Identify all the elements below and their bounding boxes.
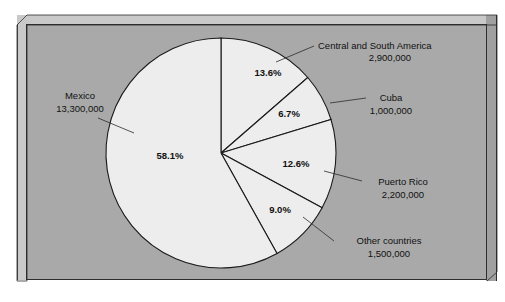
callout-label-other-countries-value: 1,500,000 [368,248,410,259]
percent-label-other-countries: 9.0% [269,204,291,215]
callout-puerto-rico: Puerto Rico 2,200,000 [378,176,428,200]
percent-label-cuba: 6.7% [278,108,300,119]
callout-cuba: Cuba 1,000,000 [370,92,412,116]
pie-slice-group [106,38,336,268]
callout-label-other-countries-name: Other countries [357,235,422,246]
percent-label-mexico: 58.1% [157,150,184,161]
callout-label-cuba-value: 1,000,000 [370,105,412,116]
callout-label-puerto-rico-name: Puerto Rico [378,176,428,187]
percent-label-puerto-rico: 12.6% [283,158,310,169]
callout-central-and-south-america: Central and South America 2,900,000 [318,40,432,63]
figure-container: 13.6% 6.7% 12.6% 9.0% 58.1% Central and … [0,0,505,302]
callout-label-central-and-south-america-name: Central and South America [318,40,432,51]
callout-other-countries: Other countries 1,500,000 [357,235,422,259]
percent-label-central-and-south-america: 13.6% [255,67,282,78]
callout-label-cuba-name: Cuba [380,92,403,103]
leader-line-central-and-south-america [276,46,314,62]
leader-line-cuba [330,98,366,103]
callout-label-central-and-south-america-value: 2,900,000 [369,52,411,63]
callout-label-puerto-rico-value: 2,200,000 [382,189,424,200]
callout-mexico: Mexico 13,300,000 [56,90,104,114]
pie-chart: 13.6% 6.7% 12.6% 9.0% 58.1% Central and … [0,0,505,302]
callout-label-mexico-name: Mexico [65,90,95,101]
callout-label-mexico-value: 13,300,000 [56,103,104,114]
